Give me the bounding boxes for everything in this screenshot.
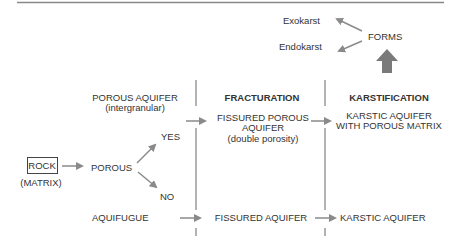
arrow-to-exokarst bbox=[337, 19, 362, 31]
label-fissured-porous-2: AQUIFER bbox=[242, 122, 284, 133]
header-fracturation: FRACTURATION bbox=[225, 92, 300, 103]
label-rock: ROCK bbox=[28, 160, 55, 171]
arrow-porous-to-yes bbox=[137, 145, 155, 163]
thick-up-arrow-icon bbox=[376, 49, 398, 73]
label-exokarst: Exokarst bbox=[283, 15, 320, 26]
label-fissured-aquifer: FISSURED AQUIFER bbox=[215, 212, 307, 223]
label-aquifugue: AQUIFUGUE bbox=[92, 212, 148, 223]
label-porous: POROUS bbox=[91, 162, 132, 173]
label-yes: YES bbox=[161, 131, 180, 142]
label-forms: FORMS bbox=[368, 31, 402, 42]
label-matrix: (MATRIX) bbox=[20, 177, 62, 188]
header-karstification: KARSTIFICATION bbox=[349, 92, 429, 103]
arrow-to-endokarst bbox=[339, 41, 362, 51]
label-endokarst: Endokarst bbox=[279, 41, 322, 52]
label-karstic-aquifer: KARSTIC AQUIFER bbox=[340, 212, 426, 223]
arrow-porous-to-no bbox=[138, 172, 156, 187]
header-porous-aquifer-sub: (intergranular) bbox=[105, 102, 165, 113]
label-no: NO bbox=[160, 191, 174, 202]
label-karstic-matrix-2: WITH POROUS MATRIX bbox=[336, 120, 442, 131]
label-double-porosity: (double porosity) bbox=[228, 133, 299, 144]
